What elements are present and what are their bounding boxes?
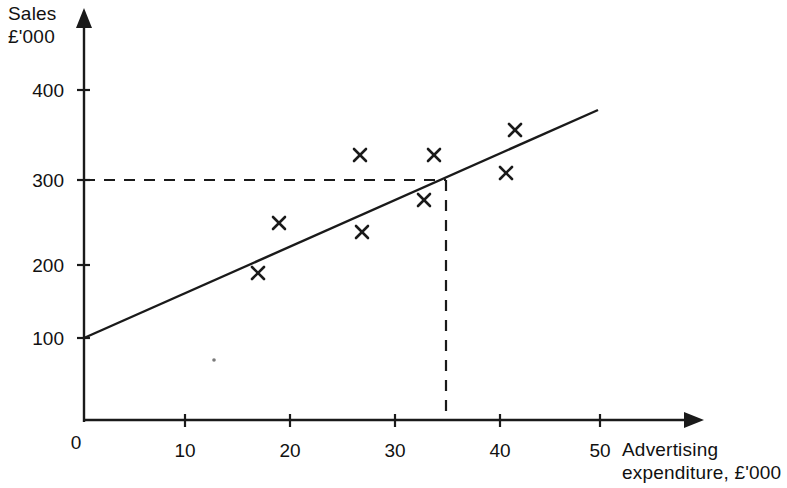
data-point-marker <box>252 267 264 279</box>
scan-speck <box>212 358 216 362</box>
x-tick-label-40: 40 <box>477 440 523 462</box>
scatter-chart: Sales £'000 Advertising expenditure, £'0… <box>0 0 787 488</box>
y-tick-label-200: 200 <box>20 255 64 277</box>
y-tick-label-300: 300 <box>20 170 64 192</box>
data-point-marker <box>509 124 521 136</box>
plot-area <box>0 0 787 488</box>
x-tick-label-20: 20 <box>267 440 313 462</box>
trend-line <box>84 110 598 338</box>
data-point-marker <box>356 226 368 238</box>
data-point-marker <box>500 167 512 179</box>
y-tick-label-400: 400 <box>20 80 64 102</box>
reading-guide-dashed-lines <box>84 180 446 420</box>
origin-label: 0 <box>53 432 99 454</box>
data-point-marker <box>273 217 285 229</box>
y-axis <box>76 8 92 422</box>
data-point-marker <box>354 149 366 161</box>
x-tick-label-50: 50 <box>577 440 623 462</box>
x-tick-label-30: 30 <box>372 440 418 462</box>
y-tick-label-100: 100 <box>20 328 64 350</box>
y-axis-title: Sales £'000 <box>8 2 57 48</box>
data-points <box>252 124 521 279</box>
data-point-marker <box>428 149 440 161</box>
data-point-marker <box>418 194 430 206</box>
x-tick-label-10: 10 <box>162 440 208 462</box>
x-axis-title: Advertising expenditure, £'000 <box>622 438 781 484</box>
